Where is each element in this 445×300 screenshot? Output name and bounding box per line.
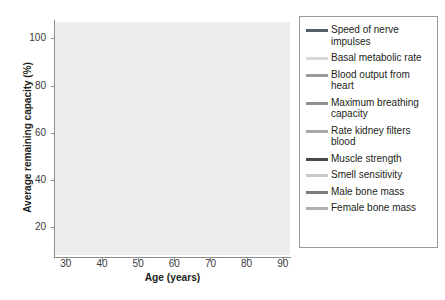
x-axis-title: Age (years): [55, 272, 290, 283]
legend-item[interactable]: Male bone mass: [306, 186, 432, 198]
chart-figure: Average remaining capacity (%) 204060801…: [0, 0, 445, 300]
legend-color-swatch: [306, 174, 328, 177]
y-tick-mark: [51, 133, 55, 134]
x-tick-label: 40: [87, 258, 117, 269]
x-tick-label: 90: [268, 258, 298, 269]
y-axis-tick-labels: 20406080100: [14, 0, 46, 300]
legend-color-swatch: [306, 102, 328, 105]
legend-color-swatch: [306, 57, 328, 60]
legend-item-label: Speed of nerve impulses: [331, 24, 432, 47]
y-tick-label: 80: [20, 81, 46, 91]
legend-item-label: Maximum breathing capacity: [331, 97, 432, 120]
y-axis-line: [54, 20, 55, 258]
y-tick-mark: [51, 227, 55, 228]
legend-item[interactable]: Basal metabolic rate: [306, 52, 432, 64]
y-tick-mark: [51, 38, 55, 39]
legend-item-label: Female bone mass: [331, 202, 416, 214]
x-tick-label: 80: [232, 258, 262, 269]
y-tick-mark: [51, 86, 55, 87]
x-tick-label: 70: [195, 258, 225, 269]
legend-item-label: Male bone mass: [331, 186, 404, 198]
legend-color-swatch: [306, 207, 328, 210]
legend-item[interactable]: Speed of nerve impulses: [306, 24, 432, 47]
x-tick-label: 30: [51, 258, 81, 269]
legend-item-label: Blood output from heart: [331, 69, 432, 92]
plot-area: [55, 22, 290, 255]
y-tick-label: 60: [20, 128, 46, 138]
legend-item[interactable]: Smell sensitivity: [306, 169, 432, 181]
legend-color-swatch: [306, 191, 328, 194]
y-tick-label: 100: [20, 33, 46, 43]
chart-legend: Speed of nerve impulsesBasal metabolic r…: [299, 16, 438, 248]
y-tick-mark: [51, 180, 55, 181]
legend-item[interactable]: Female bone mass: [306, 202, 432, 214]
legend-item-label: Basal metabolic rate: [331, 52, 422, 64]
legend-color-swatch: [306, 158, 328, 161]
legend-item-label: Muscle strength: [331, 153, 402, 165]
legend-color-swatch: [306, 29, 328, 32]
legend-item[interactable]: Blood output from heart: [306, 69, 432, 92]
x-tick-label: 50: [123, 258, 153, 269]
legend-item-label: Rate kidney filters blood: [331, 125, 432, 148]
legend-item[interactable]: Maximum breathing capacity: [306, 97, 432, 120]
legend-item-label: Smell sensitivity: [331, 169, 402, 181]
legend-item[interactable]: Rate kidney filters blood: [306, 125, 432, 148]
plot-background: [55, 22, 290, 255]
legend-color-swatch: [306, 74, 328, 77]
legend-item[interactable]: Muscle strength: [306, 153, 432, 165]
y-tick-label: 40: [20, 175, 46, 185]
x-tick-label: 60: [159, 258, 189, 269]
legend-color-swatch: [306, 130, 328, 133]
y-tick-label: 20: [20, 222, 46, 232]
